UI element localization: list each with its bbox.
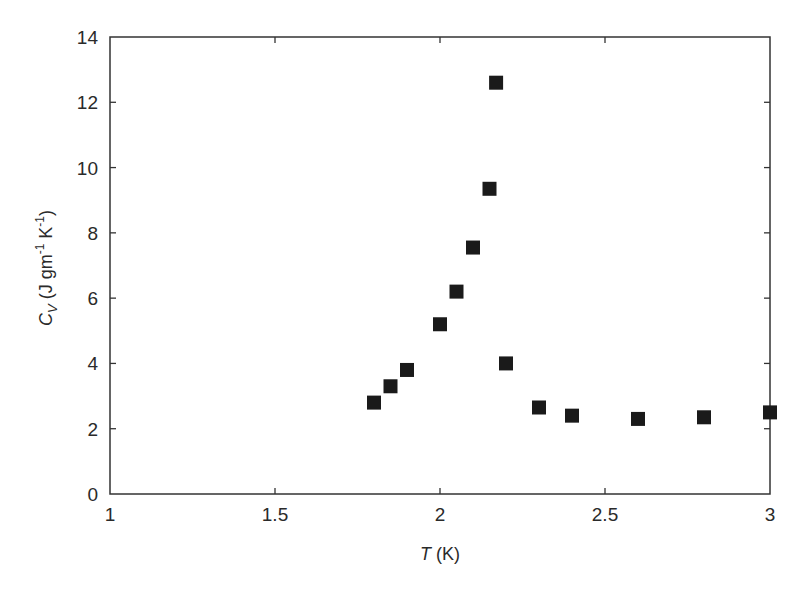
data-point-marker — [450, 285, 464, 299]
x-axis-label: T (K) — [420, 544, 460, 564]
data-point-marker — [483, 182, 497, 196]
x-tick-label: 3 — [765, 504, 776, 525]
data-point-marker — [400, 363, 414, 377]
data-point-marker — [565, 409, 579, 423]
x-tick-label: 1 — [105, 504, 116, 525]
data-point-marker — [532, 400, 546, 414]
y-axis-label: CV (J gm-1 K-1) — [33, 210, 60, 326]
data-point-marker — [631, 412, 645, 426]
y-tick-label: 0 — [87, 484, 98, 505]
data-point-marker — [697, 410, 711, 424]
y-tick-label: 8 — [87, 223, 98, 244]
data-point-marker — [489, 76, 503, 90]
data-point-marker — [367, 396, 381, 410]
data-point-marker — [763, 405, 777, 419]
data-point-marker — [466, 241, 480, 255]
x-tick-label: 1.5 — [262, 504, 288, 525]
y-tick-label: 6 — [87, 288, 98, 309]
x-tick-label: 2 — [435, 504, 446, 525]
plot-area — [110, 37, 770, 494]
data-point-marker — [384, 379, 398, 393]
y-tick-label: 2 — [87, 419, 98, 440]
x-tick-label: 2.5 — [592, 504, 618, 525]
y-tick-label: 14 — [77, 27, 99, 48]
y-tick-label: 4 — [87, 353, 98, 374]
data-point-marker — [433, 317, 447, 331]
y-tick-label: 10 — [77, 158, 98, 179]
chart: 11.522.53 02468101214 T (K) CV (J gm-1 K… — [0, 0, 801, 591]
data-point-marker — [499, 356, 513, 370]
y-tick-label: 12 — [77, 92, 98, 113]
